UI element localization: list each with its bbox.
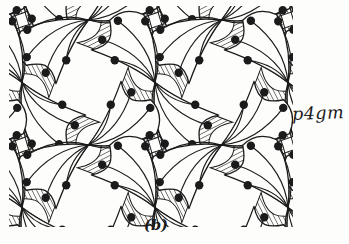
figure-caption: (b) [126, 216, 186, 233]
symmetry-group-label: p4gm [292, 102, 345, 124]
figure-p4gm: p4gm (b) [0, 0, 349, 244]
